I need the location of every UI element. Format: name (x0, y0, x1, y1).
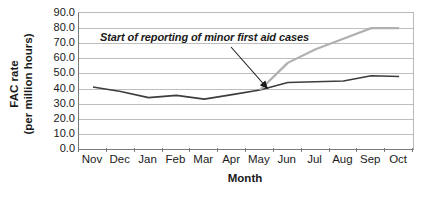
y-axis-tick-label: 0.0 (33, 143, 75, 154)
x-axis-tick-labels: NovDecJanFebMarAprMayJunJulAugSepOct (78, 152, 412, 168)
y-axis-tick-label: 40.0 (33, 82, 75, 93)
y-axis-title-line1: FAC rate (8, 60, 22, 107)
chart-container: FAC rate (per million hours) 90.080.070.… (0, 0, 445, 197)
x-axis-tick-label: Feb (165, 152, 185, 166)
x-axis-tick-label: Nov (82, 152, 102, 166)
y-axis-tick-label: 80.0 (33, 22, 75, 33)
x-axis-tick-label: Dec (110, 152, 130, 166)
x-axis-tick-label: Aug (332, 152, 352, 166)
annotation-label: Start of reporting of minor first aid ca… (100, 31, 309, 44)
y-axis-tick-label: 90.0 (33, 7, 75, 18)
x-axis-tick-label: Mar (193, 152, 213, 166)
x-axis-tick-label: Jul (307, 152, 322, 166)
x-axis-title: Month (78, 172, 412, 184)
x-axis-tick-label: Sep (360, 152, 380, 166)
y-axis-tick-labels: 90.080.070.060.050.040.030.020.010.00.0 (33, 0, 75, 197)
data-series-line (93, 76, 399, 99)
y-axis-tick-label: 30.0 (33, 97, 75, 108)
y-axis-tick-label: 70.0 (33, 37, 75, 48)
x-axis-tick-label: May (248, 152, 270, 166)
x-axis-tick-mark (412, 148, 413, 152)
x-axis-tick-label: Jan (138, 152, 157, 166)
x-axis-tick-label: Oct (389, 152, 407, 166)
x-axis-tick-label: Jun (277, 152, 296, 166)
y-axis-tick-label: 60.0 (33, 52, 75, 63)
x-axis-tick-label: Apr (222, 152, 240, 166)
y-axis-tick-label: 20.0 (33, 112, 75, 123)
y-axis-tick-label: 50.0 (33, 67, 75, 78)
y-axis-tick-label: 10.0 (33, 127, 75, 138)
